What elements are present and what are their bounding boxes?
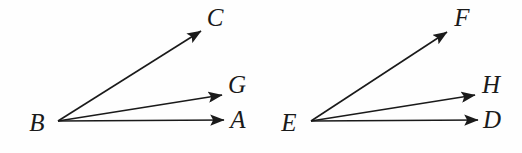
vertex-label-B: B: [29, 109, 44, 136]
geometry-figure-container: B C G A E F H D: [0, 0, 522, 153]
point-label-H: H: [481, 71, 502, 98]
point-label-G: G: [228, 71, 246, 98]
ray-ED: [311, 120, 478, 121]
left-angle-figure: B C G A: [29, 4, 246, 136]
ray-BG: [58, 95, 222, 121]
ray-BC: [58, 31, 201, 121]
point-label-C: C: [207, 4, 224, 31]
point-label-A: A: [228, 106, 246, 133]
point-label-F: F: [453, 4, 470, 31]
angles-diagram: B C G A E F H D: [0, 0, 522, 153]
ray-EH: [311, 95, 475, 121]
right-angle-figure: E F H D: [280, 4, 502, 136]
vertex-label-E: E: [280, 109, 296, 136]
point-label-D: D: [482, 106, 501, 133]
ray-BA: [58, 120, 224, 121]
ray-EF: [311, 32, 447, 121]
